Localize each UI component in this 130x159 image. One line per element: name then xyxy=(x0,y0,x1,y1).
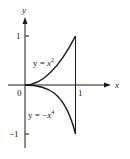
function-graph: y 1 −1 x 0 1 y = x2 y = −x4 xyxy=(0,0,130,159)
y-axis-label: y xyxy=(21,5,26,15)
y-tick-label-1: 1 xyxy=(16,31,21,41)
label-upper-curve: y = x2 xyxy=(33,57,54,68)
x-tick-label-1: 1 xyxy=(78,88,83,98)
x-axis-label: x xyxy=(114,80,119,90)
y-axis: y 1 −1 xyxy=(9,5,29,148)
y-tick-label-neg1: −1 xyxy=(9,129,19,139)
x-axis-arrow-icon xyxy=(104,83,111,88)
y-axis-arrow-icon xyxy=(23,17,28,24)
upper-prefix: y = xyxy=(33,58,47,68)
upper-exp: 2 xyxy=(51,57,54,63)
label-lower-curve: y = −x4 xyxy=(28,109,54,120)
lower-exp: 4 xyxy=(51,109,54,115)
lower-prefix: y = − xyxy=(28,110,47,120)
origin-label: 0 xyxy=(17,88,22,98)
